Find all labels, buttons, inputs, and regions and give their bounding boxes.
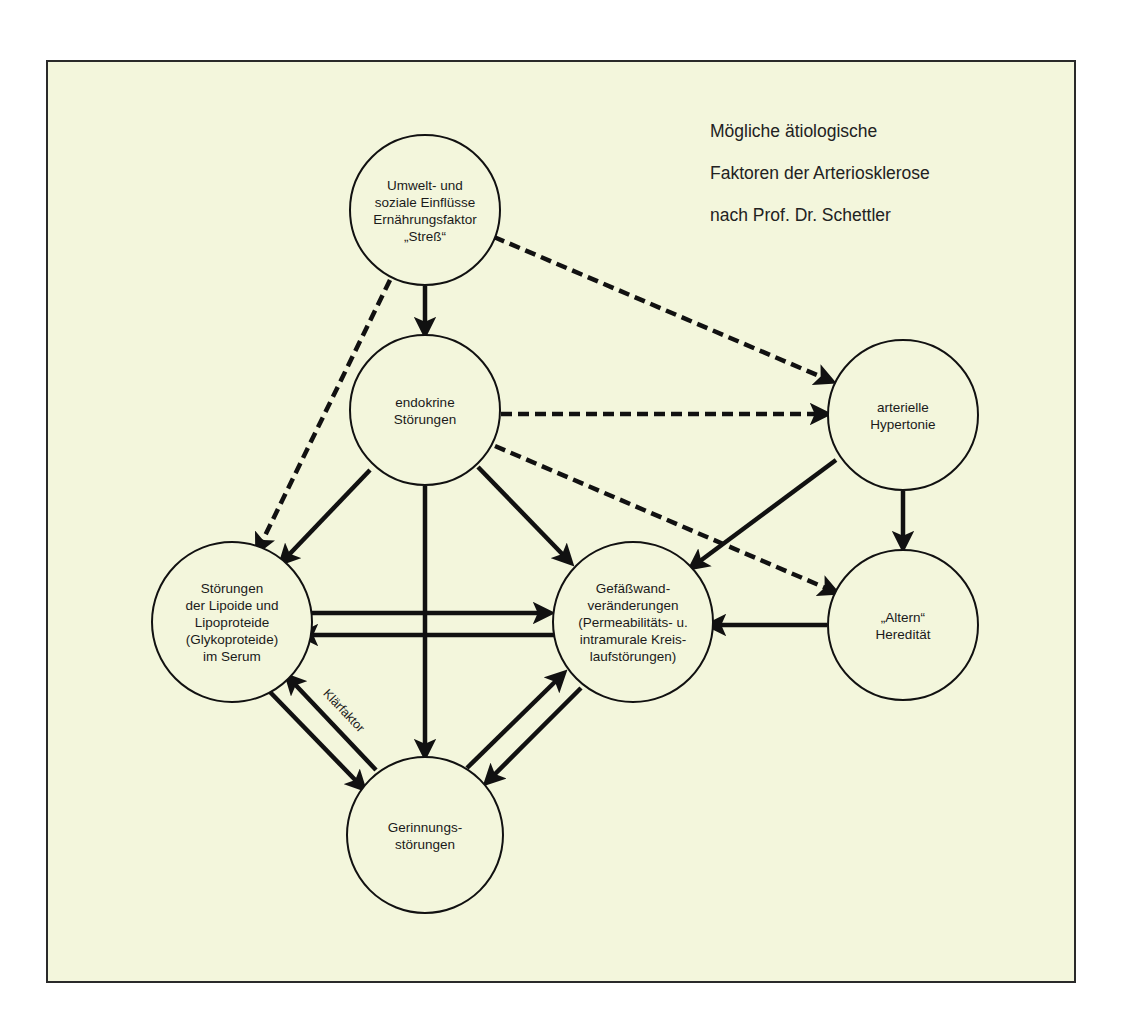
- edge-umwelt-to-hypertonie: [494, 237, 831, 381]
- node-label-line: im Serum: [203, 649, 261, 664]
- node-label-line: (Permeabilitäts- u.: [578, 615, 688, 630]
- solid-arrow-icon: [282, 470, 370, 562]
- solid-arrow-icon: [692, 460, 836, 567]
- node-label-line: Lipoproteide: [195, 615, 269, 630]
- node-label-line: laufstörungen): [590, 649, 676, 664]
- node-label-line: endokrine: [395, 395, 454, 410]
- node-label-line: soziale Einflüsse: [375, 195, 476, 210]
- node-label-line: Umwelt- und: [387, 178, 463, 193]
- node-hypertonie: arterielleHypertonie: [828, 340, 978, 490]
- node-circle: [828, 340, 978, 490]
- node-label-line: Heredität: [876, 627, 931, 642]
- node-endokrine: endokrineStörungen: [350, 335, 500, 485]
- node-gerinnung: Gerinnungs-störungen: [347, 757, 503, 913]
- node-label-line: Hypertonie: [870, 417, 935, 432]
- node-circle: [347, 757, 503, 913]
- node-lipoide: Störungender Lipoide undLipoproteide(Gly…: [152, 542, 312, 702]
- nodes-layer: Umwelt- undsoziale EinflüsseErnährungsfa…: [152, 135, 978, 913]
- node-label-line: Ernährungsfaktor: [373, 212, 477, 227]
- node-label-line: Gefäßwand-: [596, 581, 670, 596]
- node-gefaesswand: Gefäßwand-veränderungen(Permeabilitäts- …: [553, 542, 713, 702]
- edge-hypertonie-to-gefaesswand: [692, 460, 836, 567]
- node-altern: „Altern“Heredität: [828, 550, 978, 700]
- node-label-line: Gerinnungs-: [388, 820, 462, 835]
- node-circle: [350, 135, 500, 285]
- edge-endokrine-to-lipoide: [282, 470, 370, 562]
- node-circle: [828, 550, 978, 700]
- node-circle: [350, 335, 500, 485]
- node-label-line: (Glykoproteide): [186, 632, 278, 647]
- node-label-line: veränderungen: [588, 598, 679, 613]
- node-label-line: „Streß“: [404, 229, 446, 244]
- node-label-line: intramurale Kreis-: [580, 632, 687, 647]
- edges-layer: Klärfaktor: [258, 237, 903, 788]
- solid-arrow-icon: [478, 467, 570, 562]
- diagram-stage: Mögliche ätiologische Faktoren der Arter…: [0, 0, 1130, 1029]
- node-label-line: „Altern“: [881, 610, 925, 625]
- node-umwelt: Umwelt- undsoziale EinflüsseErnährungsfa…: [350, 135, 500, 285]
- node-label-line: der Lipoide und: [185, 598, 278, 613]
- node-label-line: störungen: [395, 837, 455, 852]
- node-label-line: Störungen: [394, 412, 456, 427]
- diagram-graph: Klärfaktor Umwelt- undsoziale EinflüsseE…: [0, 0, 1130, 1029]
- dashed-arrow-icon: [494, 237, 831, 381]
- edge-label-klärfaktor: Klärfaktor: [320, 687, 367, 735]
- node-label-line: Störungen: [201, 581, 263, 596]
- node-label-line: arterielle: [877, 400, 929, 415]
- edge-endokrine-to-gefaesswand: [478, 467, 570, 562]
